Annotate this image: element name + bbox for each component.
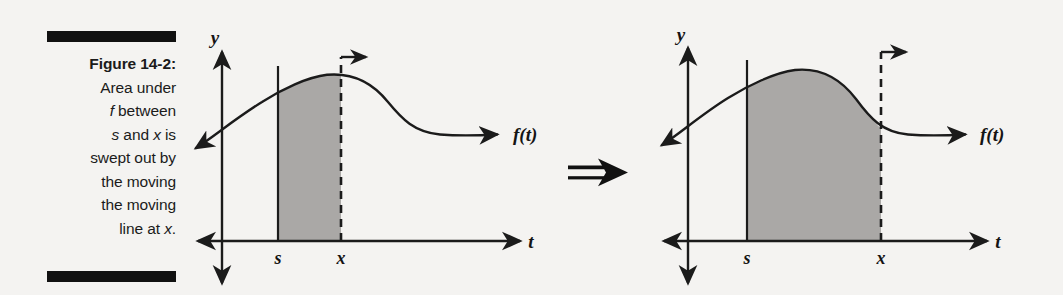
bound-label-s-right: s (742, 248, 750, 268)
implies-arrow-icon (568, 159, 628, 187)
shaded-area-right (747, 70, 881, 241)
shaded-area-left (278, 74, 341, 241)
figure-diagrams: y t s x f(t) (0, 0, 1063, 295)
bound-label-s-left: s (273, 248, 281, 268)
curve-label-left: f(t) (513, 124, 537, 146)
bound-label-x-right: x (876, 248, 886, 268)
panel-left: y t s x f(t) (196, 27, 537, 283)
panel-right: y t s x f(t) (662, 24, 1004, 283)
t-axis-label-left: t (528, 231, 534, 252)
y-axis-label-left: y (209, 27, 220, 48)
figure-14-2: Figure 14-2: Area under f between s and … (0, 0, 1063, 295)
curve-label-right: f(t) (980, 124, 1004, 146)
curve-f-left (196, 74, 497, 148)
bound-label-x-left: x (336, 248, 346, 268)
t-axis-label-right: t (995, 231, 1001, 252)
y-axis-label-right: y (675, 24, 686, 45)
